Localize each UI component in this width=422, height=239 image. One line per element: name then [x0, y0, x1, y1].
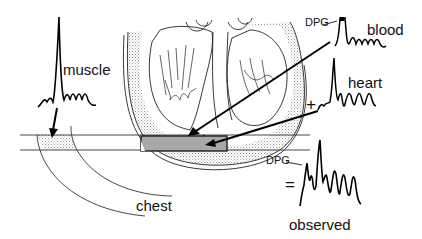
label-equals: = [285, 176, 295, 193]
label-chest: chest [136, 198, 172, 213]
label-dpg-blood: DPG [305, 17, 329, 28]
label-dpg-observed: DPG [266, 155, 290, 166]
diagram-canvas [0, 0, 422, 239]
label-muscle: muscle [63, 62, 111, 77]
label-plus: + [306, 96, 316, 113]
label-observed: observed [289, 217, 351, 232]
mrs-contamination-diagram: muscle blood DPG heart + chest DPG = obs… [0, 0, 422, 239]
label-heart: heart [348, 75, 382, 90]
label-blood: blood [367, 22, 404, 37]
